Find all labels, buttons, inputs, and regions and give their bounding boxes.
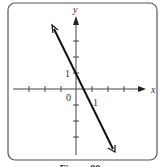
graph-figure: y x 0 1 1 Figure 88: [0, 0, 160, 167]
y-axis-arrow-icon: [73, 16, 79, 25]
x-axis-arrow-icon: [138, 86, 146, 92]
origin-label: 0: [66, 92, 71, 103]
figure-frame: [8, 3, 157, 160]
y-axis-label: y: [72, 4, 78, 15]
x-axis-label: x: [150, 84, 156, 95]
y-tick-label: 1: [65, 68, 70, 79]
x-tick-label: 1: [93, 97, 98, 108]
figure-caption: Figure 88: [60, 163, 101, 167]
